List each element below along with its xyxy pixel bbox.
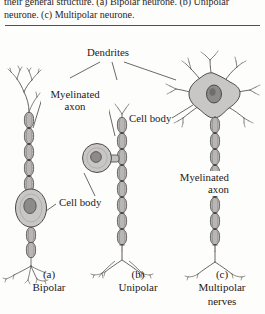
caption-horizontal-rule [5,25,260,26]
bipolar-myelinated-axon-lower [26,227,35,258]
panel-tag-a: (a) [3,268,95,281]
label-dendrites: Dendrites [86,46,130,58]
leader-dendrites-right [124,62,176,80]
panel-caption-a: (a) Bipolar [3,268,95,295]
label-myelinated-axon-right-line2: axon [208,183,229,195]
figure-caption-line-2: neurone. (c) Multipolar neurone. [4,9,260,22]
panel-name-a: Bipolar [3,281,95,294]
label-myelinated-axon-left: Myelinated axon [41,88,109,113]
label-myelinated-axon-left-line2: axon [65,100,86,112]
unipolar-nucleus [91,152,102,163]
figure-page: their general structure. (a) Bipolar neu… [0,0,265,314]
unipolar-neuron [83,104,154,278]
multipolar-nucleolus [209,88,215,96]
unipolar-myelinated-axon [117,117,126,252]
label-cell-body-bipolar: Cell body [58,196,102,208]
label-cell-body-multipolar: Cell body [128,112,172,124]
leader-dendrites-mid [112,62,117,80]
multipolar-cell-body [189,73,240,118]
multipolar-neuron [166,51,260,280]
label-myelinated-axon-right-line1: Myelinated [180,171,229,183]
bipolar-cell-body [16,189,47,227]
panel-name-c: Multipolar [176,281,265,294]
panel-name-b: Unipolar [92,281,184,294]
panel-tag-b: (b) [92,268,184,281]
label-myelinated-axon-left-line1: Myelinated [50,88,99,100]
bipolar-dendrites [8,66,41,112]
panel-tag-c: (c) [176,268,265,281]
leader-cellbody2-to-unipolar [84,173,95,196]
label-myelinated-axon-right: Myelinated axon [162,171,230,196]
panel-caption-c: (c) Multipolar nerves [176,268,265,308]
figure-caption-line-1: their general structure. (a) Bipolar neu… [4,0,260,9]
leader-cellbody1-to-multipolar [172,105,193,118]
figure-caption: their general structure. (a) Bipolar neu… [4,0,260,21]
bipolar-nucleus [24,198,36,213]
panel-name-c-line2: nerves [176,295,265,308]
leader-cellbody2-to-bipolar [46,204,56,211]
unipolar-cell-body [83,144,112,173]
panel-caption-b: (b) Unipolar [92,268,184,295]
leader-dendrites-left [70,62,100,78]
